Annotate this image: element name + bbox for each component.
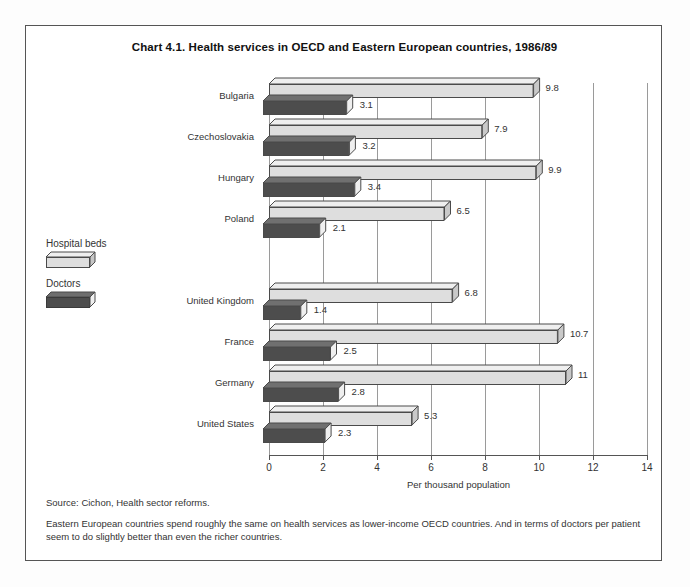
chart-row-france: France 10.7 2.5 — [26, 324, 664, 364]
chart-frame: Chart 4.1. Health services in OECD and E… — [25, 25, 662, 561]
value-label-doctors-bulgaria: 3.1 — [360, 99, 373, 110]
page-title: Chart 4.1. Health services in OECD and E… — [26, 41, 663, 53]
row-label-bulgaria: Bulgaria — [26, 90, 254, 101]
value-label-beds-hungary: 9.9 — [548, 164, 561, 175]
value-label-beds-united-kingdom: 6.8 — [465, 287, 478, 298]
x-tick-label-12: 12 — [582, 462, 604, 473]
x-tick-label-0: 0 — [258, 462, 280, 473]
chart-row-bulgaria: Bulgaria 9.8 3.1 — [26, 78, 664, 118]
value-label-doctors-germany: 2.8 — [352, 386, 365, 397]
x-tick-label-2: 2 — [312, 462, 334, 473]
x-axis-line — [269, 455, 648, 456]
x-tick-label-6: 6 — [420, 462, 442, 473]
footnotes: Source: Cichon, Health sector reforms. E… — [46, 496, 646, 544]
row-label-czechoslovakia: Czechoslovakia — [26, 131, 254, 142]
chart-row-germany: Germany 11 2.8 — [26, 365, 664, 405]
x-tick-12 — [593, 455, 594, 460]
x-tick-label-8: 8 — [474, 462, 496, 473]
value-label-beds-germany: 11 — [578, 369, 588, 380]
x-tick-4 — [377, 455, 378, 460]
value-label-beds-czechoslovakia: 7.9 — [494, 123, 507, 134]
value-label-doctors-hungary: 3.4 — [368, 181, 381, 192]
value-label-doctors-france: 2.5 — [344, 345, 357, 356]
x-tick-6 — [431, 455, 432, 460]
row-label-hungary: Hungary — [26, 172, 254, 183]
x-tick-0 — [269, 455, 270, 460]
source-line: Source: Cichon, Health sector reforms. — [46, 496, 646, 510]
row-label-united-states: United States — [26, 418, 254, 429]
x-tick-8 — [485, 455, 486, 460]
value-label-beds-poland: 6.5 — [457, 205, 470, 216]
x-tick-2 — [323, 455, 324, 460]
row-label-germany: Germany — [26, 377, 254, 388]
value-label-beds-united-states: 5.3 — [424, 410, 437, 421]
x-tick-10 — [539, 455, 540, 460]
page-canvas: Chart 4.1. Health services in OECD and E… — [0, 0, 690, 587]
value-label-doctors-united-states: 2.3 — [338, 427, 351, 438]
chart-row-poland: Poland 6.5 2.1 — [26, 201, 664, 241]
value-label-doctors-united-kingdom: 1.4 — [314, 304, 327, 315]
value-label-doctors-poland: 2.1 — [333, 222, 346, 233]
chart-row-hungary: Hungary 9.9 3.4 — [26, 160, 664, 200]
value-label-beds-france: 10.7 — [570, 328, 589, 339]
x-tick-label-4: 4 — [366, 462, 388, 473]
x-tick-label-14: 14 — [636, 462, 658, 473]
x-tick-label-10: 10 — [528, 462, 550, 473]
row-label-poland: Poland — [26, 213, 254, 224]
value-label-doctors-czechoslovakia: 3.2 — [362, 140, 375, 151]
chart-row-czechoslovakia: Czechoslovakia 7.9 3.2 — [26, 119, 664, 159]
x-axis-label: Per thousand population — [269, 479, 648, 490]
row-label-france: France — [26, 336, 254, 347]
chart-row-united-states: United States 5.3 2.3 — [26, 406, 664, 446]
note-line: Eastern European countries spend roughly… — [46, 517, 646, 544]
value-label-beds-bulgaria: 9.8 — [546, 82, 559, 93]
chart-row-spacer — [26, 242, 664, 282]
chart-row-united-kingdom: United Kingdom 6.8 1.4 — [26, 283, 664, 323]
x-tick-14 — [647, 455, 648, 460]
row-label-united-kingdom: United Kingdom — [26, 295, 254, 306]
